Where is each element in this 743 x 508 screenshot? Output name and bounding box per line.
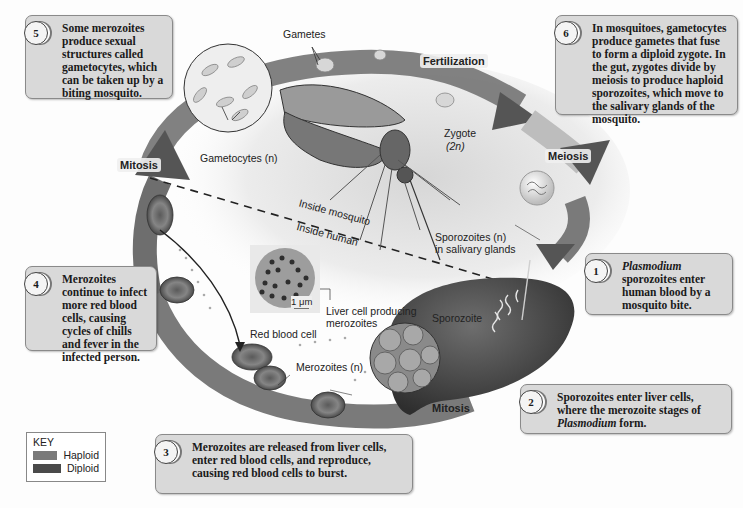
legend-item-haploid: Haploid xyxy=(33,449,99,461)
label-merozoites: Merozoites (n) xyxy=(296,361,363,373)
label-gametocytes: Gametocytes (n) xyxy=(200,152,278,164)
label-sporozoite: Sporozoite xyxy=(432,312,482,324)
label-sporozoites-salivary: Sporozoites (n) xyxy=(435,231,506,243)
step-3-text: Merozoites are released from liver cells… xyxy=(192,441,386,479)
label-liver-cell: Liver cell producing xyxy=(326,305,416,317)
label-liver-cell-2: merozoites xyxy=(326,317,377,329)
callout-step-4: 4 Merozoites continue to infect more red… xyxy=(25,266,157,351)
legend-label-haploid: Haploid xyxy=(63,449,99,461)
label-zygote-ploidy: (2n) xyxy=(446,140,465,152)
step-1-text: sporozoites enter human blood by a mosqu… xyxy=(622,273,711,311)
diploid-swatch xyxy=(33,464,61,473)
haploid-swatch xyxy=(33,451,57,460)
label-red-blood-cell: Red blood cell xyxy=(250,328,317,340)
step-4-text: Merozoites continue to infect more red b… xyxy=(62,273,147,363)
legend-key: KEY Haploid Diploid xyxy=(26,432,106,482)
step-number-3: 3 xyxy=(154,440,178,464)
label-zygote: Zygote xyxy=(444,127,476,139)
step-1-genus: Plasmodium xyxy=(622,260,681,272)
step-number-4: 4 xyxy=(24,272,48,296)
label-mitosis-top: Mitosis xyxy=(117,158,161,172)
step-2-text-suffix: form. xyxy=(616,417,646,429)
label-sporozoites-salivary-2: in salivary glands xyxy=(435,243,516,255)
gametocyte-magnifier xyxy=(184,44,272,132)
legend-title: KEY xyxy=(33,436,99,448)
label-scale-bar: 1 μm xyxy=(291,296,312,308)
label-mitosis-bottom: Mitosis xyxy=(432,402,470,414)
step-number-2: 2 xyxy=(519,390,543,414)
callout-step-6: 6 In mosquitoes, gametocytes produce gam… xyxy=(555,15,738,115)
step-number-1: 1 xyxy=(584,259,608,283)
step-5-text: Some merozoites produce sexual structure… xyxy=(62,22,163,99)
label-fertilization: Fertilization xyxy=(420,54,488,68)
label-gametes: Gametes xyxy=(283,28,326,40)
legend-label-diploid: Diploid xyxy=(67,462,99,474)
legend-item-diploid: Diploid xyxy=(33,462,99,474)
step-6-text: In mosquitoes, gametocytes produce gamet… xyxy=(592,22,726,125)
step-2-genus: Plasmodium xyxy=(557,417,616,429)
step-number-6: 6 xyxy=(554,21,578,45)
meiosis-sphere xyxy=(520,171,554,205)
step-2-text: Sporozoites enter liver cells, where the… xyxy=(557,391,701,416)
label-meiosis: Meiosis xyxy=(545,149,591,163)
callout-step-2: 2 Sporozoites enter liver cells, where t… xyxy=(520,384,732,434)
callout-step-3: 3 Merozoites are released from liver cel… xyxy=(155,434,413,494)
callout-step-1: 1 Plasmodium sporozoites enter human blo… xyxy=(585,253,733,315)
step-number-5: 5 xyxy=(24,21,48,45)
callout-step-5: 5 Some merozoites produce sexual structu… xyxy=(25,15,173,99)
